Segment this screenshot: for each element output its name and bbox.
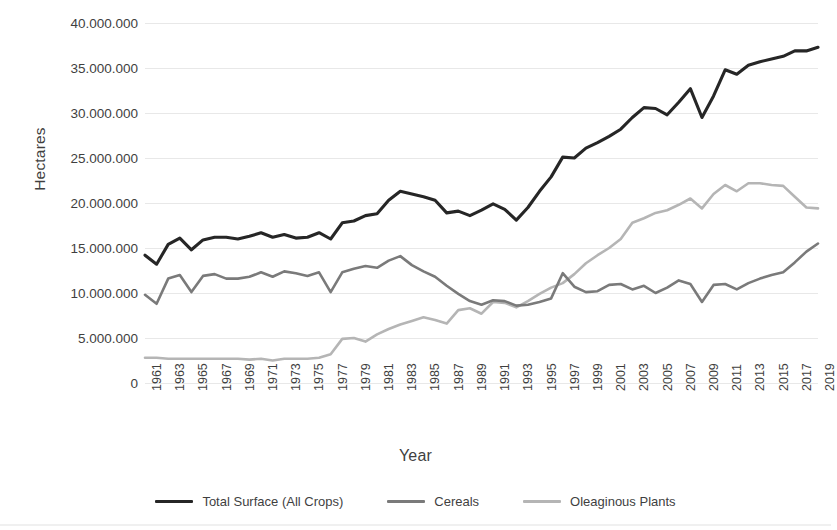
legend-entry[interactable]: Cereals xyxy=(387,494,479,509)
x-axis-tick-label: 1973 xyxy=(289,363,303,391)
x-axis-tick-label: 2015 xyxy=(777,363,791,391)
x-axis-tick-label: 1963 xyxy=(173,363,187,391)
x-axis-tick-label: 1981 xyxy=(382,363,396,391)
x-axis-tick-label: 1987 xyxy=(452,363,466,391)
x-axis-tick-label: 1997 xyxy=(568,363,582,391)
chart-legend: Total Surface (All Crops)CerealsOleagino… xyxy=(0,494,831,509)
x-axis-tick-label: 2001 xyxy=(614,363,628,391)
legend-label: Oleaginous Plants xyxy=(570,494,676,509)
legend-entry[interactable]: Oleaginous Plants xyxy=(523,494,676,509)
x-axis-tick-label: 1967 xyxy=(220,363,234,391)
x-axis-tick-label: 1989 xyxy=(475,363,489,391)
x-axis-tick-label: 1999 xyxy=(591,363,605,391)
x-axis-tick-label: 1985 xyxy=(428,363,442,391)
x-axis-tick-label: 1983 xyxy=(405,363,419,391)
legend-label: Cereals xyxy=(434,494,479,509)
y-axis-tick-label: 0 xyxy=(28,376,138,391)
plot-area xyxy=(145,23,818,383)
x-axis-tick-label: 1971 xyxy=(266,363,280,391)
y-axis-tick-label: 30.000.000 xyxy=(28,106,138,121)
y-axis-tick-label: 5.000.000 xyxy=(28,331,138,346)
x-axis-tick-label: 1991 xyxy=(498,363,512,391)
scan-edge xyxy=(0,524,831,526)
legend-entry[interactable]: Total Surface (All Crops) xyxy=(155,494,343,509)
x-axis-tick-label: 1969 xyxy=(243,363,257,391)
series-lines xyxy=(145,23,818,383)
series-line xyxy=(145,244,818,306)
x-axis-tick-label: 1965 xyxy=(196,363,210,391)
x-axis-tick-label: 2019 xyxy=(823,363,837,391)
x-axis-title: Year xyxy=(0,447,831,465)
x-axis-tick-label: 1961 xyxy=(150,363,164,391)
x-axis-tick-label: 1995 xyxy=(545,363,559,391)
x-axis-tick-label: 2011 xyxy=(730,364,744,391)
x-axis-tick-label: 2003 xyxy=(637,363,651,391)
x-axis-tick-label: 2017 xyxy=(800,363,814,391)
y-axis-tick-label: 40.000.000 xyxy=(28,16,138,31)
series-line xyxy=(145,47,818,264)
x-axis-tick-label: 2005 xyxy=(661,363,675,391)
legend-line-swatch xyxy=(155,500,193,503)
x-axis-tick-label: 2013 xyxy=(753,363,767,391)
x-axis-tick-label: 2007 xyxy=(684,363,698,391)
x-axis-tick-label: 1993 xyxy=(521,363,535,391)
x-axis-tick-labels: 1961196319651967196919711973197519771979… xyxy=(145,383,818,443)
legend-line-swatch xyxy=(523,500,561,503)
y-axis-tick-label: 20.000.000 xyxy=(28,196,138,211)
y-axis-tick-label: 35.000.000 xyxy=(28,61,138,76)
x-axis-tick-label: 1979 xyxy=(359,363,373,391)
y-axis-tick-label: 25.000.000 xyxy=(28,151,138,166)
y-axis-tick-label: 10.000.000 xyxy=(28,286,138,301)
x-axis-tick-label: 2009 xyxy=(707,363,721,391)
legend-label: Total Surface (All Crops) xyxy=(202,494,343,509)
x-axis-tick-label: 1977 xyxy=(336,363,350,391)
y-axis-tick-label: 15.000.000 xyxy=(28,241,138,256)
legend-line-swatch xyxy=(387,500,425,503)
x-axis-tick-label: 1975 xyxy=(312,363,326,391)
